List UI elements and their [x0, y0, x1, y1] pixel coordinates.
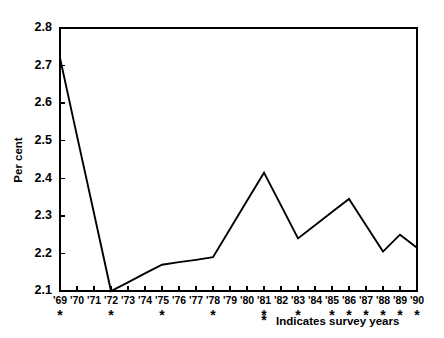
- x-tick-label: '83: [291, 294, 305, 306]
- x-tick-label: '76: [172, 294, 186, 306]
- x-tick-label: '87: [359, 294, 373, 306]
- y-axis-tick-labels: 2.12.22.32.42.52.62.72.8: [35, 20, 52, 297]
- x-tick-label: '74: [138, 294, 152, 306]
- x-axis-tick-labels: '69'70'71'72'73'74'75'76'77'78'79'80'81'…: [53, 294, 424, 306]
- x-tick-label: '70: [70, 294, 84, 306]
- x-tick-label: '85: [325, 294, 339, 306]
- x-tick-label: '88: [376, 294, 390, 306]
- y-tick-label: 2.8: [35, 20, 52, 34]
- survey-year-asterisk-icon: *: [414, 307, 420, 323]
- legend-label: Indicates survey years: [276, 315, 399, 327]
- x-tick-label: '77: [189, 294, 203, 306]
- series-line-per-cent: [60, 58, 417, 291]
- x-tick-label: '75: [155, 294, 169, 306]
- x-tick-label: '81: [257, 294, 271, 306]
- y-tick-label: 2.7: [35, 58, 52, 72]
- y-tick-label: 2.2: [35, 246, 52, 260]
- survey-year-asterisk-icon: *: [108, 307, 114, 323]
- x-tick-label: '86: [342, 294, 356, 306]
- y-tick-label: 2.1: [35, 283, 52, 297]
- x-tick-label: '78: [206, 294, 220, 306]
- x-tick-label: '82: [274, 294, 288, 306]
- y-tick-label: 2.5: [35, 133, 52, 147]
- y-tick-label: 2.4: [35, 171, 52, 185]
- line-chart: 2.12.22.32.42.52.62.72.8 '69'70'71'72'73…: [0, 0, 444, 338]
- legend-asterisk-icon: *: [261, 312, 267, 328]
- x-tick-label: '90: [410, 294, 424, 306]
- y-tick-label: 2.6: [35, 95, 52, 109]
- x-tick-label: '69: [53, 294, 67, 306]
- plot-frame: [60, 28, 417, 291]
- x-tick-label: '89: [393, 294, 407, 306]
- x-tick-label: '80: [240, 294, 254, 306]
- legend: * Indicates survey years: [261, 312, 399, 328]
- x-tick-label: '72: [104, 294, 118, 306]
- x-tick-label: '79: [223, 294, 237, 306]
- data-series-group: [60, 58, 417, 291]
- survey-year-asterisk-icon: *: [210, 307, 216, 323]
- x-tick-label: '84: [308, 294, 322, 306]
- y-axis-title: Per cent: [12, 137, 24, 183]
- chart-container: 2.12.22.32.42.52.62.72.8 '69'70'71'72'73…: [0, 0, 444, 338]
- survey-year-asterisk-icon: *: [57, 307, 63, 323]
- x-tick-label: '71: [87, 294, 101, 306]
- y-tick-label: 2.3: [35, 208, 52, 222]
- x-tick-label: '73: [121, 294, 135, 306]
- survey-year-asterisk-icon: *: [159, 307, 165, 323]
- axis-frame-path: [60, 28, 417, 291]
